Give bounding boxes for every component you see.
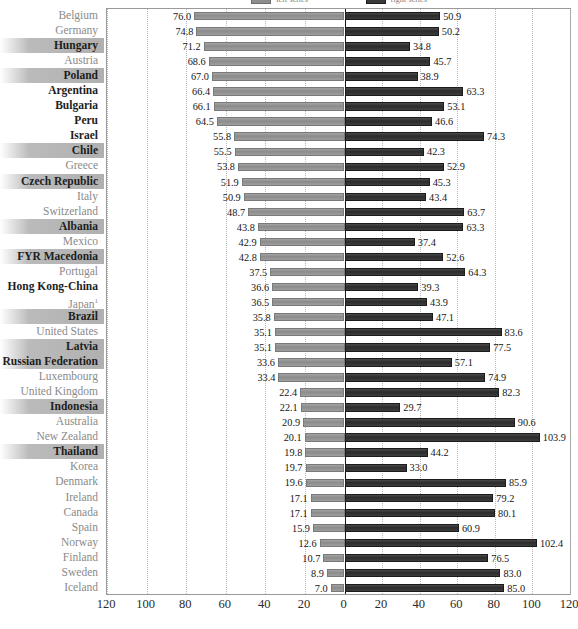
category-label-text: FYR Macedonia (17, 250, 98, 262)
legend-item-left: left-series (251, 0, 308, 4)
bar-row: 66.463.3 (107, 84, 570, 99)
category-label-text: Japan (68, 298, 94, 309)
bar-left (275, 328, 344, 336)
bar-left (260, 238, 345, 246)
bar-value-right: 85.0 (507, 582, 525, 595)
bar-row: 35.183.6 (107, 325, 570, 340)
x-axis-tick-label: 60 (219, 597, 232, 612)
bar-value-left: 35.1 (254, 326, 272, 339)
bar-value-right: 63.3 (466, 85, 484, 98)
category-label: Sweden (0, 565, 104, 580)
category-label: Mexico (0, 234, 104, 249)
bar-right (345, 163, 444, 171)
category-label: Luxembourg (0, 369, 104, 384)
category-label-text: Brazil (68, 310, 98, 322)
bar-left (260, 253, 345, 261)
bar-value-left: 36.5 (251, 296, 269, 309)
bar-right (345, 388, 500, 396)
bar-value-left: 35.8 (253, 311, 271, 324)
category-label: Brazil (0, 309, 104, 324)
bar-value-right: 83.0 (503, 567, 521, 580)
bar-left (275, 343, 344, 351)
bar-right (345, 433, 540, 441)
bar-value-right: 64.3 (468, 266, 486, 279)
bar-right (345, 509, 496, 517)
bar-right (345, 148, 424, 156)
bar-right (345, 358, 452, 366)
bar-row: 36.543.9 (107, 295, 570, 310)
bar-left (242, 178, 345, 186)
category-label-text: Luxembourg (39, 370, 98, 382)
category-label-text: United States (36, 325, 98, 337)
category-label-text: Iceland (64, 581, 98, 593)
bar-row: 48.763.7 (107, 205, 570, 220)
bar-row: 33.474.9 (107, 370, 570, 385)
bar-left (278, 358, 345, 366)
category-label: Spain (0, 520, 104, 535)
bar-row: 17.180.1 (107, 506, 570, 521)
bar-value-right: 103.9 (543, 431, 566, 444)
category-label-text: Czech Republic (21, 175, 98, 187)
bar-value-left: 19.7 (284, 461, 302, 474)
bar-left (331, 584, 345, 592)
category-label: Switzerland (0, 204, 104, 219)
category-label: Canada (0, 505, 104, 520)
bar-row: 68.645.7 (107, 54, 570, 69)
bar-value-left: 22.1 (280, 401, 298, 414)
bar-right (345, 253, 444, 261)
bar-right (345, 524, 459, 532)
bar-left (235, 148, 345, 156)
bar-value-right: 76.5 (491, 552, 509, 565)
category-label-text: Italy (77, 190, 98, 202)
bar-value-right: 102.4 (540, 537, 563, 550)
bar-right (345, 418, 515, 426)
category-label-text: Bulgaria (55, 99, 98, 111)
bar-value-left: 55.5 (214, 145, 232, 158)
category-label-text: Thailand (53, 445, 98, 457)
bar-value-right: 44.2 (431, 446, 449, 459)
category-label: Portugal (0, 264, 104, 279)
bar-value-left: 8.9 (311, 567, 324, 580)
bar-value-right: 47.1 (436, 311, 454, 324)
bar-right (345, 193, 427, 201)
bar-value-right: 63.3 (466, 221, 484, 234)
category-label: United States (0, 324, 104, 339)
category-label: Peru (0, 113, 104, 128)
x-axis-tick-label: 40 (258, 597, 271, 612)
bar-value-right: 33.0 (410, 461, 428, 474)
bar-right (345, 57, 431, 65)
category-label-text: Russian Federation (2, 355, 98, 367)
bar-value-left: 42.9 (239, 236, 257, 249)
bar-right (345, 117, 433, 125)
category-label: Korea (0, 459, 104, 474)
category-label-text: Switzerland (43, 205, 98, 217)
category-label-text: Austria (64, 54, 98, 66)
bar-value-left: 48.7 (227, 206, 245, 219)
bar-value-right: 74.3 (487, 130, 505, 143)
bar-right (345, 343, 491, 351)
bar-value-left: 53.8 (217, 160, 235, 173)
x-axis-tick-label: 80 (488, 597, 501, 612)
bar-value-right: 39.3 (421, 281, 439, 294)
category-label-text: Poland (63, 69, 98, 81)
x-axis-tick-label: 100 (522, 597, 541, 612)
bar-right (345, 12, 441, 20)
bar-value-left: 66.4 (192, 85, 210, 98)
category-label-text: Norway (61, 536, 98, 548)
bar-left (313, 524, 344, 532)
category-label-text: United Kingdom (20, 385, 98, 397)
bar-row: 64.546.6 (107, 114, 570, 129)
bar-value-right: 50.9 (443, 10, 461, 23)
x-axis-tick-label: 40 (412, 597, 425, 612)
bar-left (204, 42, 345, 50)
bar-right (345, 27, 439, 35)
bar-value-left: 51.9 (221, 176, 239, 189)
bar-value-right: 90.6 (518, 416, 536, 429)
bar-value-left: 33.6 (257, 356, 275, 369)
legend-swatch-right-icon (366, 0, 386, 4)
bar-left (217, 117, 345, 125)
category-label: Russian Federation (0, 354, 104, 369)
bar-value-right: 79.2 (496, 492, 514, 505)
bar-value-left: 7.0 (315, 582, 328, 595)
bar-right (345, 208, 465, 216)
